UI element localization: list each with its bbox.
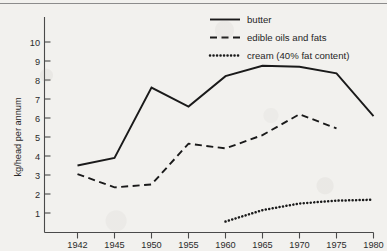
y-tick-label-8: 8 xyxy=(35,76,40,86)
x-tick-label-1942: 1942 xyxy=(67,240,87,250)
line-chart-canvas: 10 9 8 7 6 5 4 3 2 1 kg/head per annum 1… xyxy=(0,0,387,251)
y-axis-title: kg/head per annum xyxy=(13,97,23,177)
y-tick-label-5: 5 xyxy=(35,133,40,143)
x-tick-label-1965: 1965 xyxy=(252,240,272,250)
y-tick-marks xyxy=(45,42,51,213)
y-tick-label-7: 7 xyxy=(35,95,40,105)
y-tick-label-2: 2 xyxy=(35,190,40,200)
chart-legend: butter edible oils and fats cream (40% f… xyxy=(210,14,349,61)
series-line-butter xyxy=(78,66,374,166)
legend-label-butter: butter xyxy=(247,14,272,25)
x-tick-label-1950: 1950 xyxy=(141,240,161,250)
y-tick-label-10: 10 xyxy=(30,38,40,48)
x-tick-marks xyxy=(78,233,337,239)
x-tick-label-1945: 1945 xyxy=(104,240,124,250)
x-tick-label-1980: 1980 xyxy=(363,240,383,250)
y-tick-label-1: 1 xyxy=(35,209,40,219)
y-tick-label-3: 3 xyxy=(35,171,40,181)
legend-label-cream: cream (40% fat content) xyxy=(247,50,349,61)
y-tick-label-6: 6 xyxy=(35,114,40,124)
chart-figure: 10 9 8 7 6 5 4 3 2 1 kg/head per annum 1… xyxy=(0,0,387,251)
y-tick-label-9: 9 xyxy=(35,57,40,67)
x-tick-label-1955: 1955 xyxy=(178,240,198,250)
x-tick-label-1960: 1960 xyxy=(215,240,235,250)
series-line-cream xyxy=(226,200,374,222)
legend-label-edible-oils-and-fats: edible oils and fats xyxy=(247,32,327,43)
series-line-edible-oils-and-fats xyxy=(78,114,337,187)
x-tick-label-1975: 1975 xyxy=(326,240,346,250)
y-tick-label-4: 4 xyxy=(35,152,40,162)
x-tick-label-1970: 1970 xyxy=(289,240,309,250)
